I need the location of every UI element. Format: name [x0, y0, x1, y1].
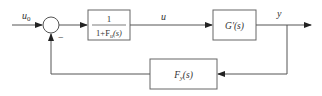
input-signal: u0: [12, 10, 42, 25]
output-label: y: [276, 8, 282, 19]
prefilter-denominator: 1+Fu(s): [96, 28, 122, 39]
input-label: u0: [22, 10, 31, 23]
control-signal-label: u: [161, 11, 166, 22]
prefilter-block: 1 1+Fu(s): [88, 10, 130, 40]
feedback-sign: −: [58, 32, 64, 43]
plant-label: G'(s): [225, 21, 244, 32]
prefilter-numerator: 1: [107, 14, 112, 24]
plant-block: G'(s): [213, 10, 256, 40]
feedback-label: Fy(s): [173, 70, 193, 81]
feedback-block: Fy(s): [150, 59, 217, 89]
block-diagram: u0 − 1 1+Fu(s) u G'(s) y Fy(s): [0, 0, 322, 96]
summing-junction: [43, 17, 59, 33]
